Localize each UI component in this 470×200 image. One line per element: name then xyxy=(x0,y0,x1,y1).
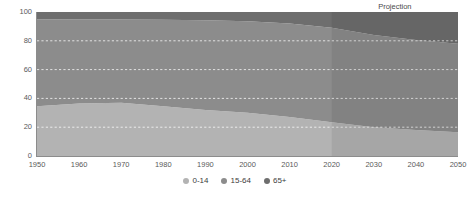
x-axis-labels: 1950196019701980199020002010202020302040… xyxy=(37,160,458,172)
legend-swatch-icon xyxy=(183,178,189,184)
y-tick-label-60: 60 xyxy=(2,66,32,74)
chart-legend: 0-1415-6465+ xyxy=(0,176,470,186)
x-tick-label-1990: 1990 xyxy=(197,160,214,169)
legend-item-0-14[interactable]: 0-14 xyxy=(183,176,208,186)
stacked-area-chart: 020406080100 195019601970198019902000201… xyxy=(0,0,470,200)
legend-label: 65+ xyxy=(273,176,287,186)
x-tick-label-1980: 1980 xyxy=(155,160,172,169)
projection-overlay xyxy=(332,12,458,156)
legend-swatch-icon xyxy=(264,178,270,184)
x-tick-label-1970: 1970 xyxy=(113,160,130,169)
x-tick-label-1950: 1950 xyxy=(29,160,46,169)
y-tick-label-100: 100 xyxy=(2,8,32,16)
y-tick-label-40: 40 xyxy=(2,94,32,102)
x-tick-label-2040: 2040 xyxy=(408,160,425,169)
x-tick-label-2000: 2000 xyxy=(239,160,256,169)
plot-svg xyxy=(37,12,458,156)
y-tick-label-20: 20 xyxy=(2,123,32,131)
plot-area xyxy=(37,12,458,156)
x-tick-label-2020: 2020 xyxy=(323,160,340,169)
projection-annotation: Projection xyxy=(378,2,411,11)
x-tick-label-2050: 2050 xyxy=(450,160,467,169)
legend-item-15-64[interactable]: 15-64 xyxy=(221,176,250,186)
x-tick-label-1960: 1960 xyxy=(71,160,88,169)
legend-item-65plus[interactable]: 65+ xyxy=(264,176,287,186)
y-axis-labels: 020406080100 xyxy=(0,0,34,200)
x-tick-label-2010: 2010 xyxy=(281,160,298,169)
y-tick-label-0: 0 xyxy=(2,152,32,160)
legend-label: 15-64 xyxy=(230,176,250,186)
legend-swatch-icon xyxy=(221,178,227,184)
y-axis-line xyxy=(36,12,37,157)
x-axis-line xyxy=(36,156,458,157)
y-tick-label-80: 80 xyxy=(2,37,32,45)
legend-label: 0-14 xyxy=(192,176,208,186)
x-tick-label-2030: 2030 xyxy=(365,160,382,169)
